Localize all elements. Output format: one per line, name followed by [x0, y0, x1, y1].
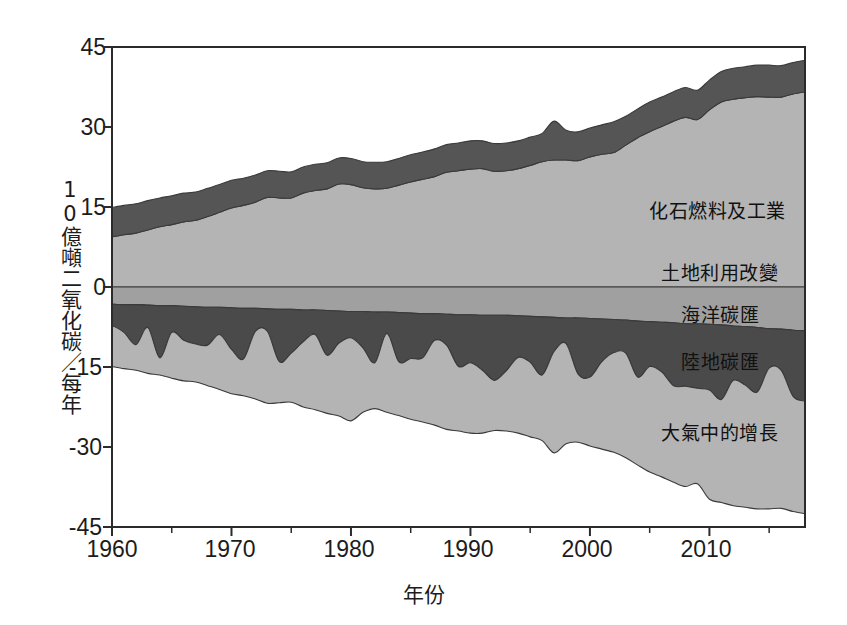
- series-label-fossil: 化石燃料及工業: [649, 196, 786, 223]
- series-label-landuse: 土地利用改變: [661, 258, 778, 285]
- series-label-landsink: 陸地碳匯: [681, 347, 759, 374]
- series-label-atmosphere: 大氣中的增長: [661, 418, 778, 445]
- area-bands: [112, 60, 805, 513]
- chart-figure: 10億噸二氧化碳／每年 45 30 15 0 -15 -30 -45 1960 …: [0, 0, 847, 625]
- series-label-ocean: 海洋碳匯: [681, 300, 759, 327]
